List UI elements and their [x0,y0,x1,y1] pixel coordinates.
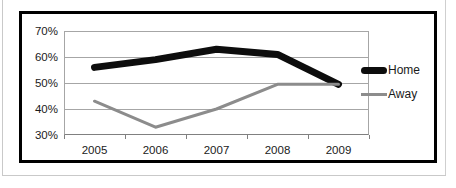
chart-legend: Home Away [361,58,433,106]
x-axis-tick-mark [64,135,65,139]
series-line-home [95,49,339,84]
x-axis-tick-label: 2009 [326,144,352,156]
page-border-right [445,0,446,176]
y-axis-tick-label: 60% [35,51,58,63]
x-axis-tick-mark [125,135,126,139]
series-line-away [95,84,339,127]
legend-swatch-away-icon [361,93,387,96]
page-border-left [2,0,3,176]
series-lines [64,31,369,135]
page-border-bottom [2,175,446,176]
legend-item-away: Away [361,82,433,106]
legend-item-home: Home [361,58,433,82]
x-axis-tick-mark [369,135,370,139]
x-axis-tick-mark [186,135,187,139]
chart-page: 70%60%50%40%30% 20052006200720082009 Hom… [0,0,456,188]
x-axis-tick-label: 2006 [143,144,169,156]
y-axis-tick-label: 70% [35,25,58,37]
y-axis-tick-label: 40% [35,103,58,115]
x-axis-tick-mark [308,135,309,139]
legend-label-away: Away [388,88,417,100]
x-axis-tick-mark [247,135,248,139]
legend-label-home: Home [388,64,420,76]
x-axis-tick-label: 2008 [265,144,291,156]
y-axis-tick-label: 30% [35,129,58,141]
plot-area: 70%60%50%40%30% 20052006200720082009 [64,31,369,135]
y-axis-tick-label: 50% [35,77,58,89]
x-axis-tick-label: 2005 [82,144,108,156]
legend-swatch-home-icon [361,67,387,74]
x-axis-tick-label: 2007 [204,144,230,156]
